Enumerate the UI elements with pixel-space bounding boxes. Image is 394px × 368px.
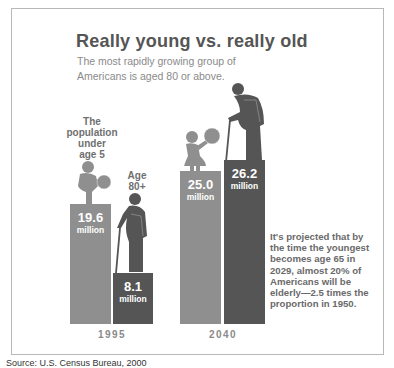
annotation-age-80: Age 80+: [120, 170, 154, 192]
bar-value-label: 8.1 million: [113, 280, 153, 304]
annotation-line: under: [62, 138, 122, 149]
annotation-line: The: [62, 116, 122, 127]
category-label-2040: 2040: [178, 329, 268, 340]
projection-note: It's projected that by the time the youn…: [270, 231, 380, 309]
source-line: Source: U.S. Census Bureau, 2000: [6, 358, 147, 368]
annotation-line: 80+: [120, 181, 154, 192]
annotation-line: population: [62, 127, 122, 138]
bar-value-label: 19.6 million: [70, 211, 111, 235]
chart-subtitle: The most rapidly growing group of Americ…: [77, 54, 267, 84]
bar-1995-age-80: 8.1 million: [113, 273, 153, 324]
annotation-under-5: The population under age 5: [62, 116, 122, 160]
toddler-with-ball-icon: [180, 126, 224, 172]
bar-2040-under-5: 25.0 million: [180, 171, 221, 324]
annotation-line: age 5: [62, 149, 122, 160]
category-label-1995: 1995: [67, 329, 157, 340]
bar-value-label: 26.2 million: [224, 167, 265, 191]
toddler-with-ball-icon: [70, 160, 114, 206]
elderly-person-with-cane-icon: [113, 192, 155, 274]
annotation-line: Age: [120, 170, 154, 181]
bar-2040-age-80: 26.2 million: [224, 160, 265, 324]
bar-1995-under-5: 19.6 million: [70, 204, 111, 324]
elderly-person-with-cane-icon: [224, 82, 270, 162]
chart-title: Really young vs. really old: [76, 30, 308, 52]
bar-value-label: 25.0 million: [180, 178, 221, 202]
